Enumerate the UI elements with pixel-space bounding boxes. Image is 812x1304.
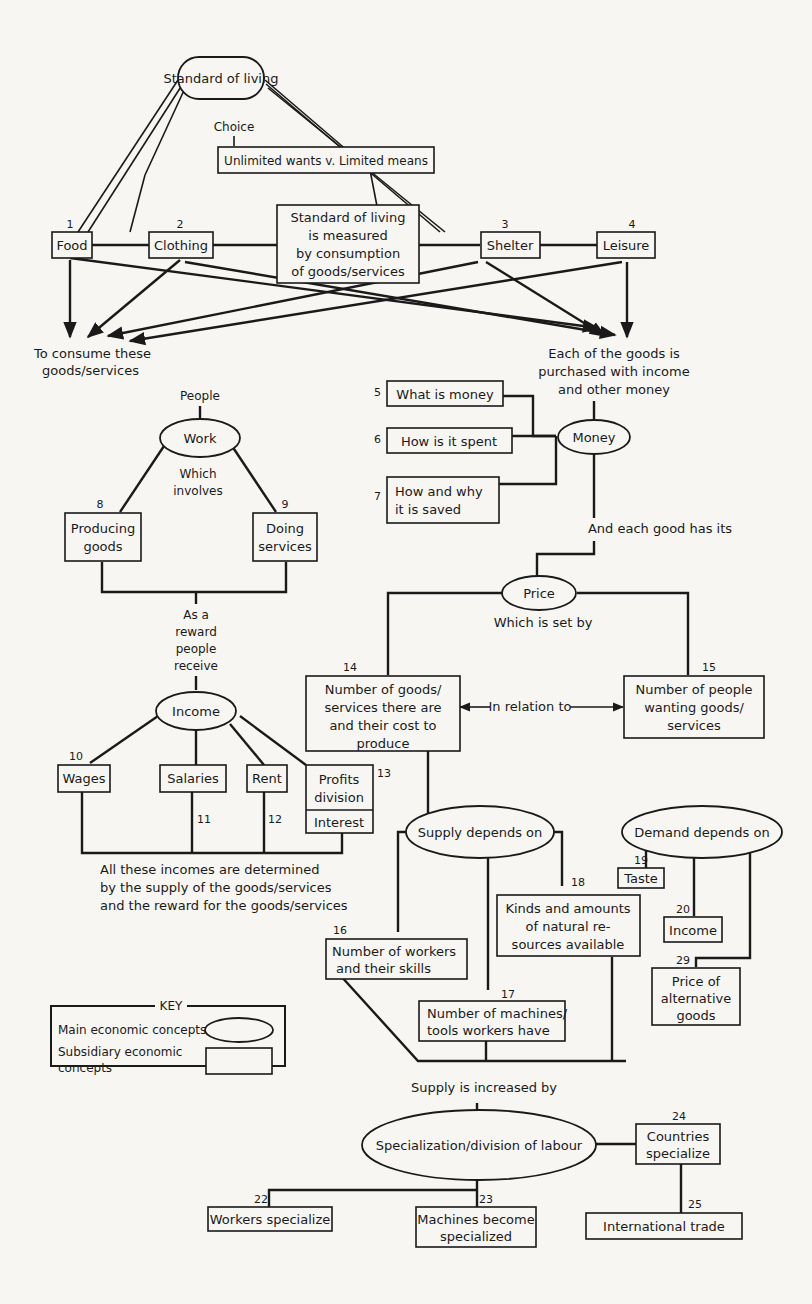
svg-text:3: 3	[502, 218, 509, 231]
svg-text:Producing: Producing	[71, 521, 135, 536]
svg-text:12: 12	[268, 813, 282, 826]
svg-text:What is money: What is money	[396, 387, 494, 402]
svg-text:Standard of living: Standard of living	[164, 71, 279, 86]
which-is-set-by-label: Which is set by	[494, 615, 593, 630]
svg-text:Taste: Taste	[623, 871, 658, 886]
node-doing-services: 9 Doing services	[253, 498, 317, 561]
svg-text:Countries: Countries	[647, 1129, 710, 1144]
node-taste: 19 Taste	[618, 854, 664, 888]
svg-text:Work: Work	[184, 431, 217, 446]
svg-text:services: services	[258, 539, 312, 554]
svg-text:goods: goods	[676, 1008, 715, 1023]
svg-text:services: services	[667, 718, 721, 733]
svg-text:Price of: Price of	[672, 974, 721, 989]
node-profits-interest: Profits division Interest 13	[306, 765, 391, 833]
node-work: Work	[160, 419, 240, 457]
svg-text:All these incomes are determin: All these incomes are determined	[100, 862, 319, 877]
svg-text:11: 11	[197, 813, 211, 826]
svg-text:Machines become: Machines become	[417, 1212, 534, 1227]
svg-text:and their skills: and their skills	[336, 961, 431, 976]
svg-text:29: 29	[676, 954, 690, 967]
svg-text:1: 1	[67, 218, 74, 231]
svg-text:goods: goods	[83, 539, 122, 554]
in-relation-to-label: In relation to	[489, 699, 572, 714]
svg-text:and their cost to: and their cost to	[329, 718, 436, 733]
svg-text:Number of workers: Number of workers	[332, 944, 456, 959]
svg-text:Kinds and amounts: Kinds and amounts	[505, 901, 630, 916]
svg-text:Number of goods/: Number of goods/	[325, 682, 442, 697]
node-machines-tools: 17 Number of machines/ tools workers hav…	[419, 988, 568, 1041]
node-standard-of-living: Standard of living	[164, 57, 279, 99]
node-people-demand: 15 Number of people wanting goods/ servi…	[624, 661, 764, 738]
svg-text:Unlimited wants v. Limited mea: Unlimited wants v. Limited means	[224, 154, 428, 168]
svg-text:19: 19	[634, 854, 648, 867]
svg-text:Food: Food	[56, 238, 87, 253]
svg-text:services there are: services there are	[324, 700, 441, 715]
svg-text:14: 14	[343, 661, 357, 674]
node-shelter: 3 Shelter	[481, 218, 540, 258]
svg-text:and the reward for the goods/s: and the reward for the goods/services	[100, 898, 348, 913]
legend-main-label: Main economic concepts	[58, 1023, 206, 1037]
svg-text:is measured: is measured	[308, 228, 387, 243]
node-wages: 10 Wages	[58, 750, 110, 792]
svg-text:Rent: Rent	[252, 771, 282, 786]
svg-text:Leisure: Leisure	[603, 238, 650, 253]
svg-text:division: division	[314, 790, 364, 805]
svg-text:How and why: How and why	[395, 484, 483, 499]
purchase-label: Each of the goods is purchased with inco…	[538, 346, 689, 397]
svg-text:16: 16	[333, 924, 347, 937]
svg-text:2: 2	[177, 218, 184, 231]
svg-text:Price: Price	[523, 586, 555, 601]
svg-text:18: 18	[571, 876, 585, 889]
each-good-has-label: And each good has its	[588, 521, 732, 536]
svg-text:produce: produce	[357, 736, 410, 751]
node-rent: Rent 12	[247, 765, 287, 826]
svg-text:it is saved: it is saved	[395, 502, 461, 517]
svg-text:Demand depends on: Demand depends on	[634, 825, 769, 840]
node-clothing: 2 Clothing	[149, 218, 213, 258]
people-label: People	[180, 389, 220, 403]
consume-label: To consume these goods/services	[33, 346, 151, 378]
svg-text:4: 4	[629, 218, 636, 231]
node-demand: Demand depends on	[622, 806, 782, 858]
node-what-is-money: 5 What is money	[374, 381, 503, 406]
svg-text:goods/services: goods/services	[42, 363, 139, 378]
node-price: Price	[502, 576, 576, 610]
svg-text:and other money: and other money	[558, 382, 670, 397]
svg-text:Salaries: Salaries	[167, 771, 219, 786]
svg-text:25: 25	[688, 1198, 702, 1211]
svg-text:Standard of living: Standard of living	[291, 210, 406, 225]
svg-text:To consume these: To consume these	[33, 346, 151, 361]
svg-text:Money: Money	[572, 430, 615, 445]
node-how-and-why-saved: 7 How and why it is saved	[374, 477, 499, 523]
svg-text:Supply depends on: Supply depends on	[418, 825, 543, 840]
svg-text:people: people	[176, 642, 217, 656]
legend-key: KEY Main economic concepts Subsidiary ec…	[51, 999, 285, 1075]
node-food: 1 Food	[52, 218, 92, 258]
supply-increased-label: Supply is increased by	[411, 1080, 557, 1095]
svg-text:of goods/services: of goods/services	[291, 264, 405, 279]
svg-text:by the supply of the goods/ser: by the supply of the goods/services	[100, 880, 332, 895]
node-leisure: 4 Leisure	[597, 218, 655, 258]
svg-text:tools workers have: tools workers have	[427, 1023, 550, 1038]
legend-subsidiary-label: Subsidiary economic	[58, 1045, 182, 1059]
node-measure: Standard of living is measured by consum…	[277, 205, 419, 283]
which-involves-label: Which	[179, 467, 216, 481]
svg-text:9: 9	[282, 498, 289, 511]
svg-text:17: 17	[501, 988, 515, 1001]
svg-text:purchased with income: purchased with income	[538, 364, 689, 379]
svg-text:Clothing: Clothing	[154, 238, 208, 253]
svg-text:concepts: concepts	[58, 1061, 112, 1075]
node-goods-supply: 14 Number of goods/ services there are a…	[306, 661, 460, 751]
svg-text:reward: reward	[175, 625, 217, 639]
node-how-is-it-spent: 6 How is it spent	[374, 428, 512, 453]
svg-text:22: 22	[254, 1193, 268, 1206]
legend-title: KEY	[160, 999, 183, 1013]
svg-text:How is it spent: How is it spent	[401, 434, 497, 449]
svg-text:13: 13	[377, 767, 391, 780]
svg-text:Number of machines/: Number of machines/	[427, 1006, 568, 1021]
node-workers-skills: 16 Number of workers and their skills	[326, 924, 467, 979]
svg-text:6: 6	[374, 433, 381, 446]
node-choice: Unlimited wants v. Limited means	[218, 147, 434, 173]
svg-text:sources available: sources available	[512, 937, 625, 952]
